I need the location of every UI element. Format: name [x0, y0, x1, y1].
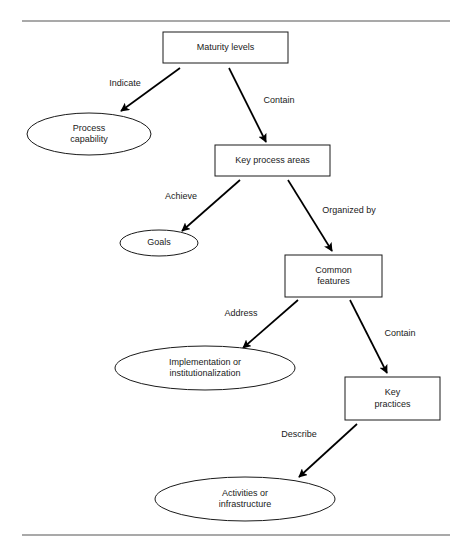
- edge-label-describe: Describe: [281, 429, 317, 439]
- horizontal-rules: [22, 21, 450, 535]
- maturity-levels-diagram: Maturity levelsProcesscapabilityKey proc…: [0, 0, 465, 553]
- node-label-activities-or-infrastructure: Activities or: [222, 488, 268, 498]
- node-label-process-capability: capability: [70, 134, 108, 144]
- node-process-capability[interactable]: Processcapability: [27, 113, 151, 155]
- edge-label-contain-kpa: Contain: [263, 95, 294, 105]
- edge-address: [243, 300, 298, 348]
- node-label-maturity-levels: Maturity levels: [197, 42, 255, 52]
- edge-achieve: [182, 180, 240, 231]
- node-activities-or-infrastructure[interactable]: Activities orinfrastructure: [155, 477, 335, 521]
- edge-organized-by: [288, 180, 332, 251]
- node-maturity-levels[interactable]: Maturity levels: [163, 32, 288, 63]
- node-common-features[interactable]: Commonfeatures: [285, 255, 382, 297]
- edge-label-achieve: Achieve: [165, 191, 197, 201]
- node-label-common-features: features: [317, 276, 350, 286]
- node-label-key-practices: Key: [385, 387, 401, 397]
- node-goals[interactable]: Goals: [120, 230, 198, 256]
- edge-contain-practices: [350, 300, 387, 373]
- node-label-key-practices: practices: [374, 399, 411, 409]
- node-key-process-areas[interactable]: Key process areas: [215, 145, 330, 176]
- node-label-process-capability: Process: [73, 123, 106, 133]
- node-label-goals: Goals: [147, 237, 171, 247]
- node-implementation-or-institutionalization[interactable]: Implementation orinstitutionalization: [115, 346, 295, 390]
- edge-label-contain-practices: Contain: [384, 328, 415, 338]
- edge-label-address: Address: [224, 308, 258, 318]
- node-label-common-features: Common: [315, 265, 352, 275]
- node-label-activities-or-infrastructure: infrastructure: [219, 499, 272, 509]
- edge-indicate: [121, 68, 180, 111]
- node-label-key-process-areas: Key process areas: [235, 155, 310, 165]
- node-key-practices[interactable]: Keypractices: [345, 377, 440, 420]
- edge-contain-kpa: [229, 68, 266, 142]
- edge-label-indicate: Indicate: [109, 78, 141, 88]
- nodes-group: Maturity levelsProcesscapabilityKey proc…: [27, 32, 440, 521]
- edge-label-organized-by: Organized by: [322, 205, 376, 215]
- node-label-implementation-or-institutionalization: institutionalization: [169, 368, 240, 378]
- node-label-implementation-or-institutionalization: Implementation or: [169, 357, 241, 367]
- diagram-canvas: Maturity levelsProcesscapabilityKey proc…: [0, 0, 465, 553]
